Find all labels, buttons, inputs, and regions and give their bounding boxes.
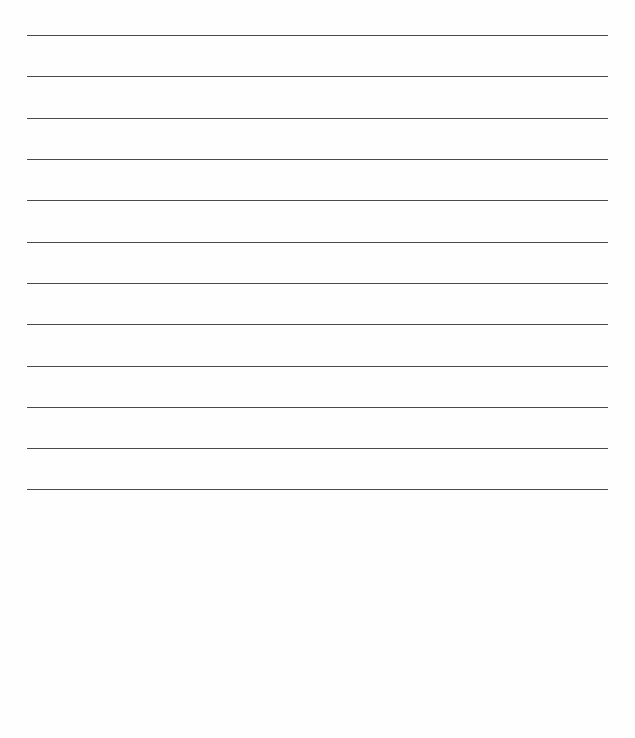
writing-line	[27, 200, 608, 201]
writing-line	[27, 118, 608, 119]
writing-line	[27, 35, 608, 36]
writing-line	[27, 448, 608, 449]
writing-line	[27, 489, 608, 490]
writing-line	[27, 159, 608, 160]
lined-page	[0, 0, 635, 738]
writing-line	[27, 283, 608, 284]
writing-line	[27, 76, 608, 77]
writing-line	[27, 242, 608, 243]
writing-line	[27, 324, 608, 325]
writing-line	[27, 407, 608, 408]
writing-line	[27, 366, 608, 367]
